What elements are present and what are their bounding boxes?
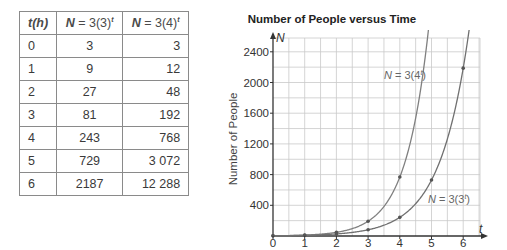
data-point xyxy=(366,219,370,223)
y-tick-label: 1200 xyxy=(243,138,269,150)
x-tick-label: 2 xyxy=(333,237,339,249)
x-tick-label: 4 xyxy=(397,237,404,249)
x-tick-label: 1 xyxy=(301,237,307,249)
x-tick-label: 5 xyxy=(428,237,434,249)
x-tick-label: 0 xyxy=(270,237,276,249)
curves xyxy=(271,30,469,238)
data-point xyxy=(335,232,339,236)
axes xyxy=(270,32,488,239)
x-tick-label: 6 xyxy=(460,237,466,249)
data-point xyxy=(461,66,465,70)
series-label-3-3t: N = 3(3t) xyxy=(428,193,470,205)
grid xyxy=(273,38,480,236)
x-tick-label: 3 xyxy=(365,237,371,249)
y-axis-symbol: N xyxy=(276,31,285,45)
data-point xyxy=(366,228,370,232)
y-tick-label: 2400 xyxy=(243,46,269,58)
chart-plot: 01234564008001200160020002400tNN = 3(4t)… xyxy=(0,0,507,250)
series-label-3-4t: N = 3(4t) xyxy=(384,69,426,81)
y-tick-label: 2000 xyxy=(243,77,269,89)
y-tick-label: 800 xyxy=(250,169,269,181)
data-point xyxy=(398,216,402,220)
y-tick-label: 400 xyxy=(250,199,269,211)
y-tick-label: 1600 xyxy=(243,107,269,119)
data-point xyxy=(398,175,402,179)
data-point xyxy=(430,178,434,182)
